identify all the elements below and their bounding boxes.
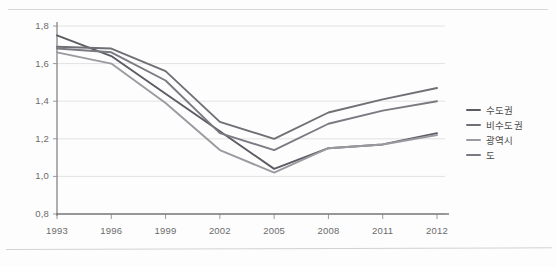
x-axis-ticks xyxy=(57,214,437,219)
x-axis-tick-label: 2005 xyxy=(254,225,294,236)
legend-color-swatch xyxy=(466,124,481,127)
legend-color-swatch xyxy=(466,154,481,157)
series-line xyxy=(57,35,437,168)
legend-color-swatch xyxy=(466,109,481,112)
chart-legend: 수도권비수도권광역시도 xyxy=(466,103,552,163)
y-axis-tick-label: 1,2 xyxy=(15,133,49,144)
x-axis-tick-label: 2002 xyxy=(200,225,240,236)
legend-item[interactable]: 비수도권 xyxy=(466,118,552,132)
legend-item[interactable]: 도 xyxy=(466,148,552,162)
y-axis-tick-label: 1,4 xyxy=(15,95,49,106)
y-axis-tick-label: 1,0 xyxy=(15,170,49,181)
legend-item[interactable]: 광역시 xyxy=(466,133,552,147)
x-axis-tick-label: 1993 xyxy=(37,225,77,236)
y-axis-tick-label: 1,6 xyxy=(15,58,49,69)
y-axis-tick-label: 1,8 xyxy=(15,20,49,31)
page-canvas: 1,81,61,41,21,00,8 199319961999200220052… xyxy=(0,0,557,267)
y-axis-tick-label: 0,8 xyxy=(15,208,49,219)
legend-item-label: 수도권 xyxy=(486,103,514,117)
series-line xyxy=(57,52,437,172)
legend-item-label: 도 xyxy=(486,148,495,162)
series-line xyxy=(57,47,437,139)
x-axis-tick-label: 2008 xyxy=(308,225,348,236)
x-axis-tick-label: 1999 xyxy=(146,225,186,236)
legend-item-label: 광역시 xyxy=(486,133,514,147)
x-axis-tick-label: 2012 xyxy=(417,225,457,236)
data-series-layer xyxy=(57,35,437,172)
legend-color-swatch xyxy=(466,139,481,142)
legend-item[interactable]: 수도권 xyxy=(466,103,552,117)
x-axis-tick-label: 1996 xyxy=(91,225,131,236)
x-axis-tick-label: 2011 xyxy=(363,225,403,236)
legend-item-label: 비수도권 xyxy=(486,118,523,132)
